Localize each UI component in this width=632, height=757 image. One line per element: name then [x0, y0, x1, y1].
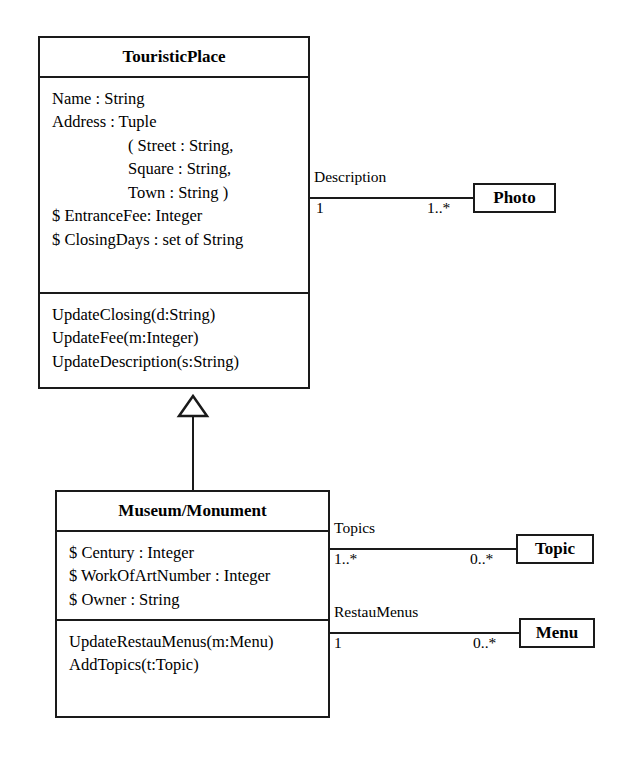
source-multiplicity-topics: 1..*	[334, 550, 357, 568]
association-label-restau-menus: RestauMenus	[334, 603, 418, 621]
attributes-compartment-museum-monument: $ Century : Integer $ WorkOfArtNumber : …	[57, 530, 328, 619]
target-multiplicity-restau-menus: 0..*	[473, 634, 496, 652]
class-box-museum-monument[interactable]: Museum/Monument $ Century : Integer $ Wo…	[55, 490, 330, 718]
operation-item: UpdateDescription(s:String)	[52, 350, 300, 373]
source-multiplicity-description: 1	[316, 199, 324, 217]
class-name-topic: Topic	[535, 539, 575, 559]
generalization-line	[192, 416, 194, 490]
attribute-item: $ EntranceFee: Integer	[52, 204, 300, 227]
attribute-item: Square : String,	[52, 157, 300, 180]
attribute-item: $ Century : Integer	[69, 541, 320, 564]
operations-compartment-museum-monument: UpdateRestauMenus(m:Menu) AddTopics(t:To…	[57, 619, 328, 716]
class-name-museum-monument: Museum/Monument	[57, 492, 328, 530]
class-name-menu: Menu	[536, 623, 579, 643]
class-box-topic[interactable]: Topic	[516, 534, 594, 564]
attributes-compartment-touristic-place: Name : String Address : Tuple ( Street :…	[40, 76, 308, 292]
source-multiplicity-restau-menus: 1	[334, 634, 342, 652]
association-label-description: Description	[314, 168, 386, 186]
attribute-item: ( Street : String,	[52, 134, 300, 157]
uml-class-diagram: TouristicPlace Name : String Address : T…	[0, 0, 632, 757]
operation-item: UpdateRestauMenus(m:Menu)	[69, 630, 320, 653]
class-box-photo[interactable]: Photo	[473, 183, 556, 213]
operation-item: UpdateClosing(d:String)	[52, 303, 300, 326]
attribute-item: Name : String	[52, 87, 300, 110]
operations-compartment-touristic-place: UpdateClosing(d:String) UpdateFee(m:Inte…	[40, 292, 308, 388]
class-name-touristic-place: TouristicPlace	[40, 38, 308, 76]
attribute-item: $ Owner : String	[69, 588, 320, 611]
operation-item: UpdateFee(m:Integer)	[52, 326, 300, 349]
target-multiplicity-topics: 0..*	[470, 550, 493, 568]
attribute-item: Address : Tuple	[52, 110, 300, 133]
class-box-touristic-place[interactable]: TouristicPlace Name : String Address : T…	[38, 36, 310, 389]
attribute-item: $ WorkOfArtNumber : Integer	[69, 564, 320, 587]
attribute-item: Town : String )	[52, 181, 300, 204]
target-multiplicity-description: 1..*	[427, 199, 450, 217]
association-label-topics: Topics	[334, 519, 375, 537]
class-name-photo: Photo	[493, 188, 536, 208]
attribute-item: $ ClosingDays : set of String	[52, 228, 300, 251]
operation-item: AddTopics(t:Topic)	[69, 653, 320, 676]
generalization-triangle-icon	[176, 394, 210, 418]
class-box-menu[interactable]: Menu	[519, 618, 595, 648]
